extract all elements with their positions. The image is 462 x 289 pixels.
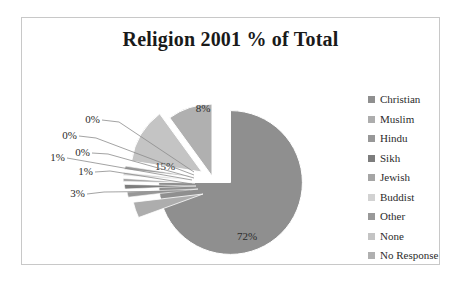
legend-swatch-icon [368, 155, 375, 162]
legend-swatch-icon [368, 116, 375, 123]
legend-label: Other [380, 211, 405, 222]
chart-title: Religion 2001 % of Total [22, 28, 439, 51]
legend-swatch-icon [368, 174, 375, 181]
legend-item-muslim[interactable]: Muslim [368, 110, 460, 130]
legend-label: Jewish [380, 172, 410, 183]
legend-label: Buddist [380, 192, 414, 203]
chart-legend: Christian Muslim Hindu Sikh Jewish Buddi… [368, 90, 460, 266]
pie-chart-svg: 72% 15% 8% 0% 0% 0% 1% 1% 3% [22, 58, 352, 264]
legend-item-sikh[interactable]: Sikh [368, 149, 460, 169]
legend-label: Hindu [380, 133, 408, 144]
legend-item-jewish[interactable]: Jewish [368, 168, 460, 188]
slice-value-christian: 72% [237, 230, 257, 242]
legend-swatch-icon [368, 96, 375, 103]
legend-item-buddist[interactable]: Buddist [368, 188, 460, 208]
legend-swatch-icon [368, 194, 375, 201]
legend-label: Sikh [380, 153, 400, 164]
callout-value-muslim: 3% [70, 187, 85, 199]
legend-label: Christian [380, 94, 420, 105]
legend-item-none[interactable]: None [368, 227, 460, 247]
callout-value-hindu: 1% [78, 165, 93, 177]
pie-plot-area: 72% 15% 8% 0% 0% 0% 1% 1% 3% [22, 58, 352, 264]
legend-label: None [380, 231, 404, 242]
legend-swatch-icon [368, 252, 375, 259]
callout-value-sikh: 1% [50, 151, 65, 163]
legend-label: Muslim [380, 114, 414, 125]
callout-value-jewish: 0% [75, 146, 90, 158]
chart-frame: Religion 2001 % of Total 72 [21, 17, 440, 265]
legend-item-other[interactable]: Other [368, 207, 460, 227]
legend-swatch-icon [368, 213, 375, 220]
legend-item-no-response[interactable]: No Response [368, 246, 460, 266]
slice-value-no-response: 8% [196, 102, 211, 114]
callout-value-other: 0% [85, 113, 100, 125]
legend-label: No Response [380, 250, 438, 261]
legend-item-hindu[interactable]: Hindu [368, 129, 460, 149]
legend-item-christian[interactable]: Christian [368, 90, 460, 110]
legend-swatch-icon [368, 135, 375, 142]
legend-swatch-icon [368, 233, 375, 240]
callout-value-buddist: 0% [62, 129, 77, 141]
